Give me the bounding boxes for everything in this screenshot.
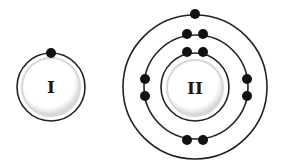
electron — [140, 74, 150, 84]
atom-i: I — [17, 48, 85, 121]
electron — [242, 74, 252, 84]
electron — [182, 29, 192, 39]
electron — [46, 48, 56, 58]
electron — [140, 91, 150, 101]
atom-ii: II — [123, 9, 267, 159]
electron — [182, 47, 192, 57]
electron — [182, 135, 192, 145]
electron — [198, 29, 208, 39]
atom-diagram: I II — [0, 0, 281, 167]
electron — [198, 47, 208, 57]
electron — [198, 135, 208, 145]
electron — [242, 91, 252, 101]
atom-label-i: I — [47, 77, 55, 97]
atom-label-ii: II — [187, 78, 203, 98]
electron — [190, 9, 200, 19]
